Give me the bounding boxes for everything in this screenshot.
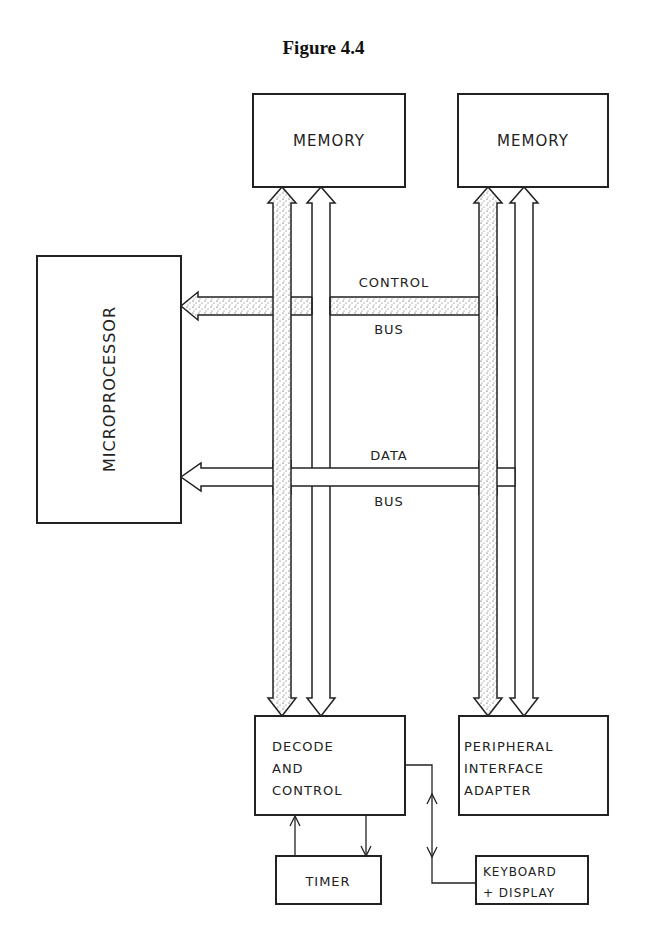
pia-label-2: INTERFACE xyxy=(464,761,544,776)
keyboard-label-1: KEYBOARD xyxy=(483,865,557,879)
keyboard-label-2: + DISPLAY xyxy=(483,886,555,900)
timer-label: TIMER xyxy=(304,874,350,889)
pia-label-1: PERIPHERAL xyxy=(464,739,553,754)
left-hollow-bus xyxy=(307,187,335,716)
right-stippled-bus xyxy=(474,187,502,716)
data-bus-label-top: DATA xyxy=(370,448,408,463)
control-bus-label-bottom: BUS xyxy=(374,322,404,337)
decode-label-1: DECODE xyxy=(272,739,334,754)
control-bus-label-top: CONTROL xyxy=(359,275,429,290)
pia-label-3: ADAPTER xyxy=(464,783,532,798)
right-hollow-bus xyxy=(510,187,538,716)
data-bus-label-bottom: BUS xyxy=(374,494,404,509)
data-bus-arrow xyxy=(181,463,515,491)
control-bus-arrow xyxy=(181,292,497,320)
block-diagram: MEMORY MEMORY MICROPROCESSOR CONTROL BUS… xyxy=(0,0,647,951)
left-stippled-bus xyxy=(268,187,296,716)
decode-label-3: CONTROL xyxy=(272,783,342,798)
microprocessor-label: MICROPROCESSOR xyxy=(100,306,119,472)
memory-left-label: MEMORY xyxy=(293,132,365,150)
memory-right-label: MEMORY xyxy=(497,132,569,150)
decode-label-2: AND xyxy=(272,761,304,776)
